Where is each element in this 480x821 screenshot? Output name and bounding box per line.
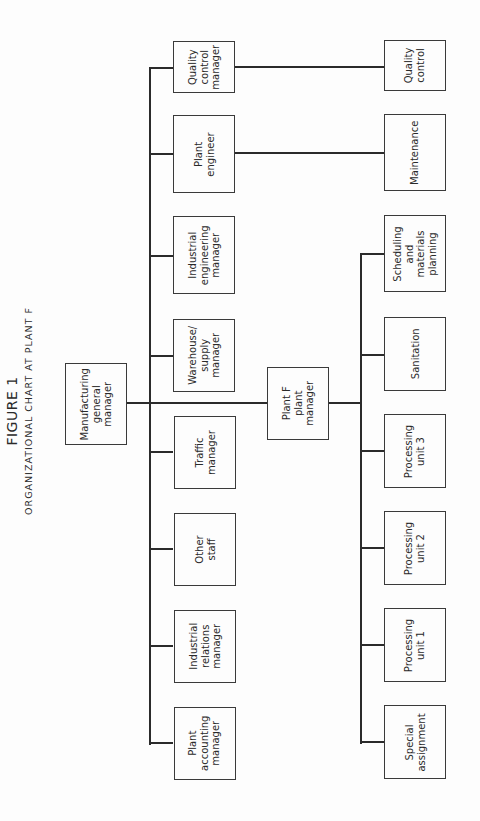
stub-ind-relations	[149, 645, 173, 647]
node-scheduling-materials-planning: Scheduling and materials planning	[384, 215, 446, 292]
stub-proc1	[360, 644, 384, 646]
node-processing-unit-1: Processing unit 1	[384, 608, 446, 682]
staff-trunk	[149, 67, 151, 745]
node-label: Quality control manager	[187, 45, 222, 90]
figure-label: FIGURE 1	[4, 201, 20, 621]
node-quality-control: Quality control	[384, 40, 446, 91]
node-sanitation: Sanitation	[384, 317, 446, 391]
connector-engineer-to-maintenance	[235, 152, 384, 154]
node-manufacturing-general-manager: Manufacturing general manager	[65, 363, 127, 445]
node-quality-control-manager: Quality control manager	[173, 41, 235, 93]
stub-qc-manager	[149, 67, 173, 69]
node-industrial-relations-manager: Industrial relations manager	[174, 610, 236, 683]
connector-plant-manager-to-units	[329, 402, 362, 404]
figure-title-block: FIGURE 1 ORGANIZATIONAL CHART AT PLANT F	[4, 201, 36, 621]
node-processing-unit-3: Processing unit 3	[384, 414, 446, 488]
node-label: Scheduling and materials planning	[392, 226, 438, 281]
node-label: Processing unit 1	[404, 618, 427, 671]
connector-qc-manager-to-qc	[235, 66, 384, 68]
node-other-staff: Other staff	[174, 513, 236, 586]
node-label: Industrial relations manager	[188, 623, 223, 670]
node-label: Processing unit 3	[404, 424, 427, 477]
stub-plant-accounting	[149, 742, 173, 744]
node-label: Plant accounting manager	[188, 716, 223, 771]
node-label: Quality control	[403, 48, 426, 84]
node-label: Processing unit 2	[404, 521, 427, 574]
node-processing-unit-2: Processing unit 2	[384, 511, 446, 585]
stub-proc2	[360, 547, 384, 549]
node-label: Manufacturing general manager	[79, 368, 114, 440]
node-plant-engineer: Plant engineer	[173, 115, 235, 193]
node-label: Special assignment	[403, 713, 426, 771]
figure-title: ORGANIZATIONAL CHART AT PLANT F	[22, 201, 36, 621]
node-plant-accounting-manager: Plant accounting manager	[174, 707, 236, 780]
stub-traffic	[149, 451, 173, 453]
stub-special	[360, 741, 384, 743]
node-label: Warehouse/ supply manager	[187, 326, 222, 385]
node-warehouse-supply-manager: Warehouse/ supply manager	[173, 319, 235, 392]
node-label: Maintenance	[409, 120, 421, 184]
node-label: Plant engineer	[193, 132, 216, 176]
stub-proc3	[360, 450, 384, 452]
node-label: Plant F plant manager	[281, 381, 316, 426]
node-maintenance: Maintenance	[384, 114, 446, 191]
node-industrial-engineering-manager: Industrial engineering manager	[173, 216, 235, 294]
stub-other-staff	[149, 548, 173, 550]
node-label: Other staff	[194, 535, 217, 563]
node-plant-f-plant-manager: Plant F plant manager	[267, 367, 329, 440]
units-trunk	[360, 253, 362, 744]
stub-plant-engineer	[149, 153, 173, 155]
node-label: Traffic manager	[193, 430, 216, 475]
stub-scheduling	[360, 253, 384, 255]
node-label: Industrial engineering manager	[187, 225, 222, 285]
node-traffic-manager: Traffic manager	[174, 416, 236, 489]
stub-warehouse	[149, 355, 173, 357]
stub-ind-eng	[149, 255, 173, 257]
node-special-assignment: Special assignment	[384, 705, 446, 779]
stub-sanitation	[360, 354, 384, 356]
node-label: Sanitation	[409, 329, 421, 380]
